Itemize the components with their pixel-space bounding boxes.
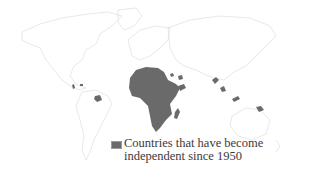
gulf-region <box>178 75 183 80</box>
legend-label: Countries that have become independent s… <box>124 137 263 163</box>
caribbean-small-region <box>80 84 83 86</box>
yemen-region <box>178 84 186 91</box>
europe-outline <box>128 26 170 60</box>
asia-outline <box>168 16 276 80</box>
legend-line-2: independent since 1950 <box>124 150 263 163</box>
indonesia-region <box>232 96 240 102</box>
africa-region <box>129 67 180 132</box>
south-america-outline <box>76 90 112 160</box>
malaysia-region <box>220 86 226 92</box>
greenland-outline <box>118 8 142 30</box>
bangladesh-region <box>212 77 219 84</box>
legend-swatch <box>111 141 122 149</box>
caribbean-region <box>72 84 75 89</box>
middle-east-region <box>170 73 174 77</box>
madagascar-region <box>174 108 180 119</box>
papua-new-guinea-region <box>256 106 264 112</box>
new-zealand-outline <box>276 140 280 152</box>
independent-regions <box>72 67 264 132</box>
north-america-outline <box>22 12 122 90</box>
guyana-region <box>94 95 102 102</box>
